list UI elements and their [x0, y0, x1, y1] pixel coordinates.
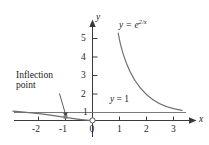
x-tick-label-2: 2 [144, 124, 149, 134]
asymptote-label: y = 1 [110, 94, 129, 104]
asymptote-label-equation: = 1 [114, 94, 129, 104]
y-axis-label: y [96, 12, 100, 22]
x-tick-label-3: 3 [171, 124, 176, 134]
inflection-annotation-line-1: Inflection [16, 70, 53, 80]
y-axis-arrowhead [89, 20, 95, 28]
inflection-annotation-line-2: point [16, 80, 53, 90]
y-axis-ticks [93, 39, 98, 113]
curve-equation-label: y = e2/x [119, 18, 147, 30]
y-tick-label-1: 1 [83, 107, 88, 117]
x-tick-label-1: 1 [117, 124, 122, 134]
x-tick-label-0: 0 [90, 124, 95, 134]
origin-hole-marker [90, 118, 95, 123]
x-tick-label--1: -1 [59, 124, 67, 134]
curve-equation-exponent: 2/x [139, 18, 147, 25]
x-axis-ticks [39, 117, 174, 121]
x-tick-label--2: -2 [32, 124, 40, 134]
x-axis-arrowhead [189, 117, 197, 123]
y-tick-label-5: 5 [81, 33, 86, 43]
y-tick-label-3: 3 [81, 70, 86, 80]
inflection-point-annotation: Inflection point [16, 70, 53, 91]
inflection-point-marker [64, 115, 68, 119]
y-tick-label-2: 2 [81, 89, 86, 99]
x-axis-label: x [199, 114, 203, 124]
curve-equation-base: y = e [119, 20, 139, 30]
y-tick-label-4: 4 [81, 52, 86, 62]
figure-container: y x 5 4 3 2 1 -2 -1 0 1 2 3 y = e2/x y =… [0, 0, 209, 145]
